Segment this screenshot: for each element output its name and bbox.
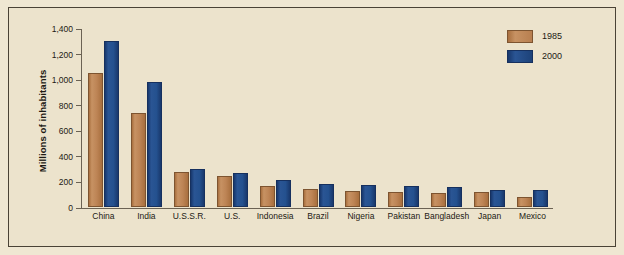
y-tick-mark — [76, 54, 81, 55]
x-axis-label: Japan — [478, 211, 501, 222]
bar-1985[interactable] — [517, 197, 532, 207]
bar-2000[interactable] — [190, 169, 205, 207]
bar-1985[interactable] — [388, 192, 403, 207]
x-axis-label: Nigeria — [347, 211, 374, 222]
legend-swatch-2000 — [507, 50, 533, 63]
y-tick-mark — [76, 80, 81, 81]
bar-group: Japan — [474, 26, 505, 208]
chart-frame: Millions of inhabitants 02004006008001,0… — [8, 7, 616, 247]
chart-legend: 19852000 — [507, 28, 593, 68]
bar-group: U.S.S.R. — [174, 26, 205, 208]
bar-1985[interactable] — [345, 191, 360, 207]
y-tick: 400 — [35, 151, 81, 163]
y-tick-mark — [76, 182, 81, 183]
legend-item-1985[interactable]: 1985 — [507, 28, 593, 45]
y-tick-label: 600 — [59, 125, 73, 137]
y-tick: 800 — [35, 100, 81, 112]
x-axis-label: China — [92, 211, 114, 222]
y-tick-mark — [76, 105, 81, 106]
x-axis-label: Bangladesh — [424, 211, 469, 222]
bar-1985[interactable] — [474, 192, 489, 207]
y-tick: 1,200 — [35, 49, 81, 61]
bar-group: U.S. — [217, 26, 248, 208]
x-axis-label: U.S.S.R. — [173, 211, 206, 222]
legend-item-2000[interactable]: 2000 — [507, 48, 593, 65]
y-tick-label: 800 — [59, 100, 73, 112]
bar-1985[interactable] — [88, 73, 103, 207]
y-tick-label: 1,400 — [52, 23, 73, 35]
bar-2000[interactable] — [147, 82, 162, 207]
bar-2000[interactable] — [490, 190, 505, 207]
bar-2000[interactable] — [447, 187, 462, 207]
bar-group: China — [88, 26, 119, 208]
y-tick-label: 0 — [68, 202, 73, 214]
x-axis-line — [81, 208, 553, 209]
y-tick-label: 1,000 — [52, 74, 73, 86]
bar-group: India — [131, 26, 162, 208]
bar-2000[interactable] — [404, 186, 419, 207]
bar-2000[interactable] — [361, 185, 376, 207]
y-tick-label: 1,200 — [52, 49, 73, 61]
bar-group: Nigeria — [345, 26, 376, 208]
y-tick: 600 — [35, 125, 81, 137]
bar-1985[interactable] — [174, 172, 189, 207]
bar-2000[interactable] — [276, 180, 291, 207]
x-axis-label: Mexico — [519, 211, 546, 222]
bar-group: Bangladesh — [431, 26, 462, 208]
bar-2000[interactable] — [533, 190, 548, 207]
y-tick-label: 400 — [59, 151, 73, 163]
bar-2000[interactable] — [319, 184, 334, 207]
bar-1985[interactable] — [260, 186, 275, 207]
x-axis-label: Brazil — [307, 211, 328, 222]
y-tick: 200 — [35, 176, 81, 188]
x-axis-label: Indonesia — [257, 211, 294, 222]
bar-1985[interactable] — [217, 176, 232, 207]
y-tick-mark — [76, 29, 81, 30]
bar-group: Brazil — [303, 26, 334, 208]
bar-1985[interactable] — [303, 189, 318, 207]
legend-swatch-1985 — [507, 30, 533, 43]
bar-1985[interactable] — [431, 193, 446, 207]
x-axis-label: India — [137, 211, 155, 222]
y-tick-label: 200 — [59, 176, 73, 188]
y-tick: 1,000 — [35, 74, 81, 86]
bar-2000[interactable] — [233, 173, 248, 207]
y-tick-mark — [76, 208, 81, 209]
x-axis-label: U.S. — [224, 211, 241, 222]
plot-area: 02004006008001,0001,2001,400 ChinaIndiaU… — [81, 26, 553, 208]
bar-group: Pakistan — [388, 26, 419, 208]
legend-label: 2000 — [542, 50, 562, 63]
bar-1985[interactable] — [131, 113, 146, 207]
y-tick-mark — [76, 156, 81, 157]
x-axis-label: Pakistan — [388, 211, 421, 222]
y-axis-title: Millions of inhabitants — [36, 46, 50, 196]
y-tick: 1,400 — [35, 23, 81, 35]
y-tick: 0 — [35, 202, 81, 214]
bar-2000[interactable] — [104, 41, 119, 207]
bar-series-container: ChinaIndiaU.S.S.R.U.S.IndonesiaBrazilNig… — [82, 26, 553, 208]
figure-canvas: Millions of inhabitants 02004006008001,0… — [0, 0, 624, 255]
y-tick-mark — [76, 131, 81, 132]
legend-label: 1985 — [542, 30, 562, 43]
bar-group: Indonesia — [260, 26, 291, 208]
